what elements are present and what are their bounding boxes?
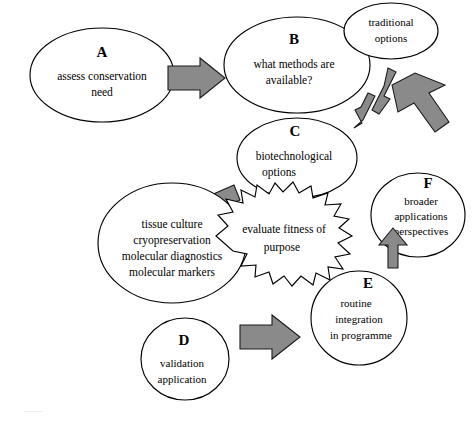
node-a-letter: A <box>97 44 108 60</box>
arrow-f-to-traditional-shape <box>392 73 449 132</box>
node-traditional-ellipse <box>344 3 438 59</box>
node-d: D validation application <box>141 318 229 400</box>
node-b-letter: B <box>289 31 299 47</box>
node-d-line-2: application <box>158 373 207 385</box>
node-f-line-1: broader <box>404 195 438 207</box>
node-c: C biotechnological options <box>237 118 357 198</box>
node-evaluate-line-2: purpose <box>264 241 300 254</box>
node-methods-line-3: molecular diagnostics <box>122 250 223 263</box>
node-a-line-1: assess conservation <box>57 70 147 82</box>
node-f-letter: F <box>423 175 432 191</box>
node-evaluate-line-1: evaluate fitness of <box>242 223 326 235</box>
node-a-line-2: need <box>91 86 113 98</box>
node-a: A assess conservation need <box>30 28 174 122</box>
arrow-d-to-e-shape <box>240 315 300 359</box>
node-methods-line-4: molecular markers <box>129 266 215 278</box>
arrow-c-traditional-down-shape <box>372 68 396 114</box>
arrow-d-to-e <box>240 315 300 359</box>
node-b-line-1: what methods are <box>253 58 334 70</box>
arrow-a-to-b <box>168 58 225 98</box>
node-methods-line-1: tissue culture <box>142 218 203 230</box>
node-e-line-1: routine <box>340 297 371 309</box>
diagram-svg: A assess conservation need B what method… <box>0 0 473 421</box>
node-e-letter: E <box>363 275 373 291</box>
node-d-line-1: validation <box>160 357 204 369</box>
node-c-line-1: biotechnological <box>256 150 333 163</box>
caption-fragment: ....... <box>0 407 473 421</box>
arrow-f-to-traditional <box>392 73 449 132</box>
node-traditional-line-2: options <box>375 32 407 44</box>
node-methods-line-2: cryopreservation <box>133 234 211 247</box>
node-traditional-options: traditional options <box>344 3 438 59</box>
diagram-canvas: A assess conservation need B what method… <box>0 0 473 421</box>
node-f-line-3: perspectives <box>394 225 448 237</box>
node-d-letter: D <box>179 332 190 348</box>
node-e-line-2: integration <box>335 313 383 325</box>
arrow-a-to-b-shape <box>168 58 225 98</box>
node-traditional-line-1: traditional <box>368 16 413 28</box>
node-f-line-2: applications <box>394 210 447 222</box>
node-c-line-2: options <box>262 166 296 179</box>
node-b-line-2: available? <box>266 74 313 86</box>
arrow-c-traditional-down <box>372 68 396 114</box>
node-e-line-3: in programme <box>330 329 392 341</box>
caption-text: ....... <box>24 407 43 414</box>
node-e: E routine integration in programme <box>311 271 407 365</box>
node-c-letter: C <box>290 123 301 139</box>
